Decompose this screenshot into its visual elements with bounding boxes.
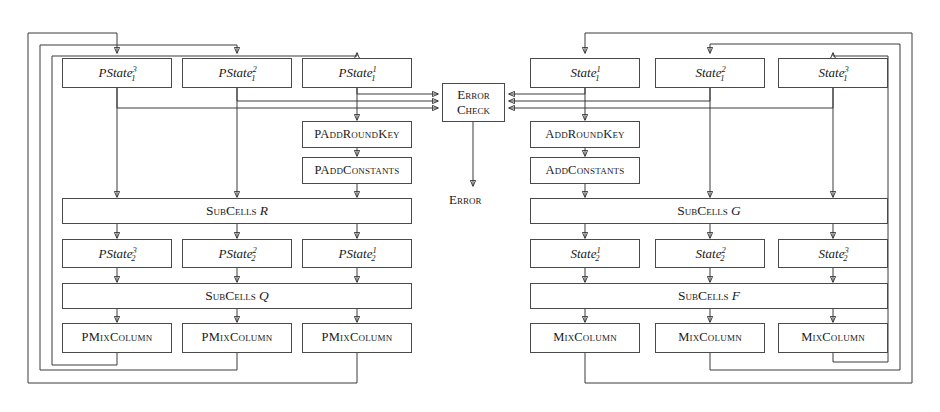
node-pstate-1-2[interactable]: PState12: [302, 239, 412, 268]
node-label: PState11: [339, 66, 376, 80]
node-error-check[interactable]: Error Check: [442, 83, 505, 122]
node-addroundkey[interactable]: AddRoundKey: [530, 121, 640, 148]
node-paddroundkey[interactable]: PAddRoundKey: [302, 121, 412, 148]
error-check-label: Error Check: [457, 88, 490, 117]
node-label: PState12: [339, 247, 376, 261]
node-pstate-3-1[interactable]: PState31: [62, 58, 172, 88]
node-pstate-2-1[interactable]: PState21: [182, 58, 292, 88]
error-check-line2: Check: [457, 103, 490, 118]
node-state-3-1[interactable]: State31: [778, 58, 888, 88]
error-output-label: Error: [449, 192, 481, 208]
node-label: PAddConstants: [314, 164, 399, 177]
node-label: PState21: [219, 66, 256, 80]
node-pstate-2-2[interactable]: PState22: [182, 239, 292, 268]
node-label: State32: [819, 247, 848, 261]
node-paddconstants[interactable]: PAddConstants: [302, 157, 412, 184]
node-label: State11: [571, 66, 600, 80]
node-pmixcolumn-2[interactable]: PMixColumn: [182, 323, 292, 353]
node-mixcolumn-1[interactable]: MixColumn: [530, 323, 640, 353]
node-state-1-2[interactable]: State12: [530, 239, 640, 268]
node-state-2-1[interactable]: State21: [655, 58, 765, 88]
node-mixcolumn-2[interactable]: MixColumn: [655, 323, 765, 353]
node-addconstants[interactable]: AddConstants: [530, 157, 640, 184]
node-label: State31: [819, 66, 848, 80]
node-subcells-r[interactable]: SubCells R: [62, 198, 412, 224]
node-label: MixColumn: [553, 331, 617, 344]
node-pstate-1-1[interactable]: PState11: [302, 58, 412, 88]
diagram-canvas: PState31 PState21 PState11 PAddRoundKey …: [0, 0, 940, 412]
node-state-1-1[interactable]: State11: [530, 58, 640, 88]
node-label: MixColumn: [801, 331, 865, 344]
node-label: PAddRoundKey: [314, 128, 400, 141]
node-subcells-g[interactable]: SubCells G: [530, 198, 888, 224]
node-label: State21: [696, 66, 725, 80]
error-check-line1: Error: [457, 88, 489, 103]
node-subcells-q[interactable]: SubCells Q: [62, 283, 412, 309]
node-label: SubCells Q: [205, 289, 269, 303]
node-label: PState32: [99, 247, 136, 261]
node-label: SubCells F: [678, 289, 740, 303]
node-mixcolumn-3[interactable]: MixColumn: [778, 323, 888, 353]
node-label: SubCells R: [206, 204, 268, 218]
node-pstate-3-2[interactable]: PState32: [62, 239, 172, 268]
node-label: PState31: [99, 66, 136, 80]
node-label: PMixColumn: [82, 331, 153, 344]
node-label: PMixColumn: [202, 331, 273, 344]
node-state-3-2[interactable]: State32: [778, 239, 888, 268]
node-label: AddConstants: [545, 164, 624, 177]
node-pmixcolumn-3[interactable]: PMixColumn: [62, 323, 172, 353]
node-pmixcolumn-1[interactable]: PMixColumn: [302, 323, 412, 353]
node-label: PState22: [219, 247, 256, 261]
node-label: PMixColumn: [322, 331, 393, 344]
node-subcells-f[interactable]: SubCells F: [530, 283, 888, 309]
node-label: State22: [696, 247, 725, 261]
node-label: AddRoundKey: [545, 128, 625, 141]
node-label: MixColumn: [678, 331, 742, 344]
node-label: SubCells G: [677, 204, 741, 218]
node-label: State12: [571, 247, 600, 261]
node-state-2-2[interactable]: State22: [655, 239, 765, 268]
